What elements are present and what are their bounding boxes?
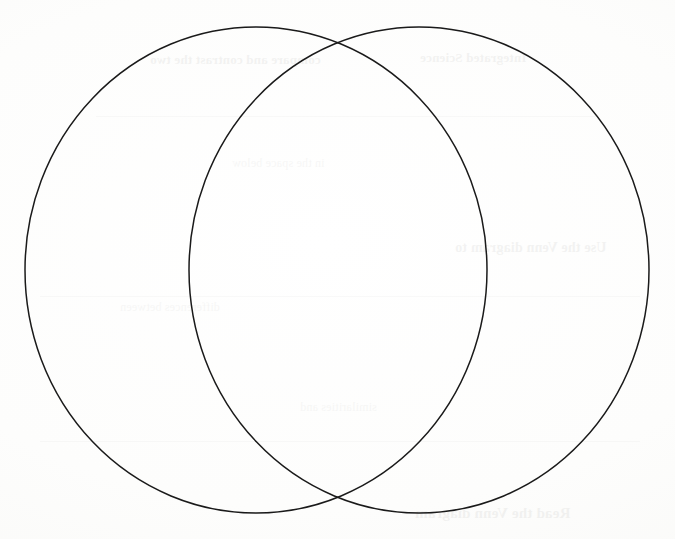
venn-left-circle (25, 27, 487, 513)
venn-right-circle (189, 27, 649, 513)
page-number-marker: 5 (0, 529, 1, 535)
worksheet-page: compare and contrast the two Integrated … (0, 0, 675, 539)
venn-diagram (0, 0, 675, 539)
